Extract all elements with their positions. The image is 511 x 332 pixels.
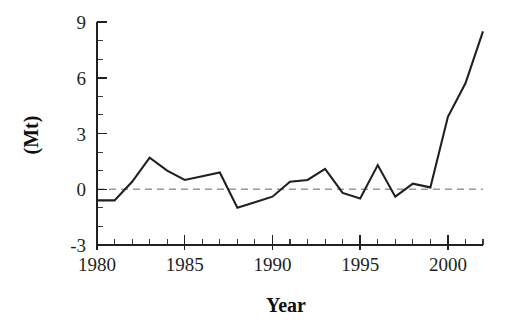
x-tick-label: 1985 bbox=[166, 254, 204, 275]
x-axis-tick-labels: 19801985199019952000 bbox=[78, 254, 467, 275]
y-tick-label: 9 bbox=[77, 12, 87, 33]
y-tick-label: 3 bbox=[77, 124, 87, 145]
x-tick-label: 1995 bbox=[341, 254, 379, 275]
y-tick-label: -3 bbox=[70, 235, 86, 256]
y-axis-title: (Mt) bbox=[20, 116, 43, 155]
x-tick-label: 1980 bbox=[78, 254, 116, 275]
x-axis-title: Year bbox=[266, 294, 306, 316]
y-tick-label: 6 bbox=[77, 68, 87, 89]
series-group bbox=[97, 31, 483, 208]
x-tick-label: 2000 bbox=[429, 254, 467, 275]
chart-figure: -30369 19801985199019952000 (Mt) Year bbox=[0, 0, 511, 332]
line-chart-canvas: -30369 19801985199019952000 (Mt) Year bbox=[0, 0, 511, 332]
x-axis-minor-ticks bbox=[115, 239, 483, 245]
y-axis-tick-labels: -30369 bbox=[70, 12, 86, 256]
x-tick-label: 1990 bbox=[253, 254, 291, 275]
series-line-annual-change bbox=[97, 31, 483, 208]
y-tick-label: 0 bbox=[77, 179, 87, 200]
y-axis-major-ticks bbox=[97, 22, 107, 245]
